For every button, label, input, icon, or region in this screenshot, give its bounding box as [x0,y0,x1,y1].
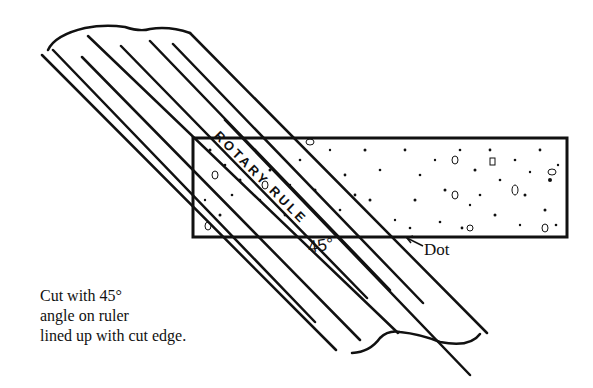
angle-label: 45° [307,234,335,257]
ruler-bottom-wavy-edge [352,332,480,353]
caption: Cut with 45° angle on ruler lined up wit… [40,286,186,346]
dot-label: Dot [424,240,450,260]
caption-line: Cut with 45° [40,286,186,306]
caption-line: lined up with cut edge. [40,326,186,346]
caption-line: angle on ruler [40,306,186,326]
ruler-top-wavy-edge [48,26,190,50]
fabric-strip [193,138,567,237]
